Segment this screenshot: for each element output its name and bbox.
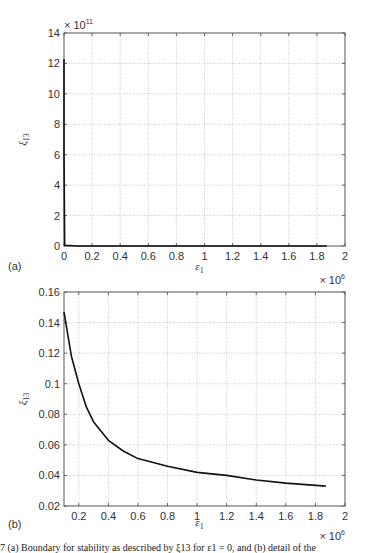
y-tick-label: 0.06	[39, 439, 60, 451]
x-tick-label: 1.4	[249, 510, 264, 522]
y-axis-label: ξ13	[16, 393, 31, 406]
y-tick-label: 0.12	[39, 347, 60, 359]
x-tick-label: 1	[201, 250, 207, 262]
x-tick-label: 1.6	[281, 250, 296, 262]
x-tick-label: 0.8	[169, 250, 184, 262]
y-tick-label: 2	[54, 210, 60, 222]
x-tick-label: 1.8	[308, 510, 323, 522]
y-multiplier: × 1011	[64, 18, 93, 31]
x-tick-label: 0.2	[84, 250, 99, 262]
y-axis-label: ξ13	[16, 133, 31, 146]
x-tick-label: 2	[342, 510, 348, 522]
x-tick-label: 0.2	[71, 510, 86, 522]
y-tick-label: 14	[48, 27, 60, 39]
x-tick-label: 0.4	[113, 250, 128, 262]
y-tick-label: 0.08	[39, 408, 60, 420]
y-tick-label: 10	[48, 88, 60, 100]
y-tick-label: 0.04	[39, 469, 60, 481]
panel-label: (a)	[8, 260, 21, 272]
x-tick-label: 0.8	[160, 510, 175, 522]
y-tick-label: 0.16	[39, 286, 60, 298]
y-tick-label: 4	[54, 179, 60, 191]
x-multiplier: × 106	[319, 273, 345, 286]
x-axis-label: ε1	[195, 516, 203, 531]
panel-label: (b)	[8, 518, 21, 530]
x-tick-label: 0.6	[141, 250, 156, 262]
figure-caption: 7 (a) Boundary for stability as describe…	[0, 542, 316, 553]
y-tick-label: 0.14	[39, 317, 60, 329]
y-tick-label: 0.1	[45, 378, 60, 390]
x-multiplier: × 106	[319, 529, 345, 542]
y-tick-label: 12	[48, 57, 60, 69]
x-tick-label: 1.2	[219, 510, 234, 522]
x-tick-label: 1.4	[253, 250, 268, 262]
x-tick-label: 0.4	[101, 510, 116, 522]
y-tick-label: 6	[54, 149, 60, 161]
x-tick-label: 1.6	[278, 510, 293, 522]
data-line	[64, 59, 327, 246]
x-tick-label: 0	[61, 250, 67, 262]
x-tick-label: 1.2	[225, 250, 240, 262]
x-tick-label: 0.6	[130, 510, 145, 522]
axes-frame	[64, 33, 345, 246]
x-axis-label: ε1	[195, 260, 203, 275]
chart-panel-a: 00.20.40.60.811.21.41.61.8202468101214ε1…	[8, 18, 348, 286]
data-line	[64, 312, 326, 486]
y-tick-label: 0	[54, 240, 60, 252]
x-tick-label: 1.8	[309, 250, 324, 262]
y-tick-label: 8	[54, 118, 60, 130]
chart-panel-b: 0.20.40.60.811.21.41.61.820.020.040.060.…	[8, 286, 348, 542]
y-tick-label: 0.02	[39, 500, 60, 512]
x-tick-label: 2	[342, 250, 348, 262]
